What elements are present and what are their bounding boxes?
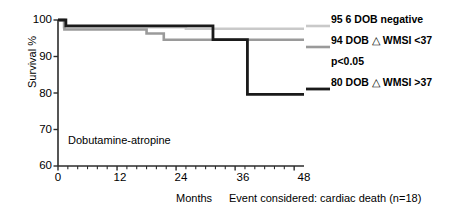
plot-canvas <box>0 0 453 215</box>
survival-chart: Survival % 100 90 80 70 60 0 12 24 36 48… <box>0 0 453 215</box>
series-line <box>58 20 304 29</box>
series-line <box>58 20 304 94</box>
